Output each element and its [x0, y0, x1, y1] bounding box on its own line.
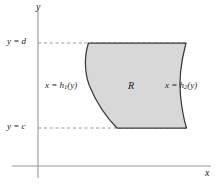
x-axis-label: x [205, 168, 209, 178]
y-axis-label: y [36, 2, 40, 12]
label-left-curve-prefix: x = h [45, 80, 64, 90]
label-right-curve-prefix: x = h [165, 80, 184, 90]
label-left-curve-h1: x = h1(y) [45, 81, 77, 91]
figure-container: y x y = d y = c x = h1(y) x = h2(y) R [0, 0, 218, 187]
label-left-curve-suffix: (y) [67, 80, 77, 90]
label-right-curve-h2: x = h2(y) [165, 81, 197, 91]
label-y-equals-d: y = d [7, 37, 26, 46]
region-label-R: R [128, 81, 134, 91]
label-y-equals-c: y = c [7, 122, 26, 131]
diagram-canvas [0, 0, 218, 187]
label-right-curve-suffix: (y) [187, 80, 197, 90]
